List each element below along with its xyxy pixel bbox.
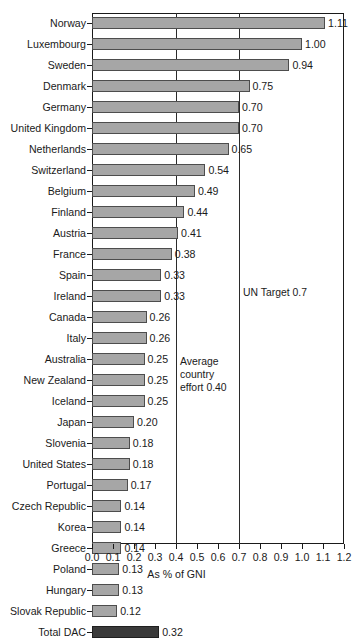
bar — [92, 227, 178, 239]
bar — [92, 248, 172, 260]
category-label: Australia — [0, 349, 86, 370]
bar — [92, 458, 130, 470]
x-axis-tick — [281, 544, 282, 549]
bar-row: Iceland0.25 — [0, 391, 353, 412]
bar-value-label: 0.18 — [133, 433, 154, 454]
category-label: United States — [0, 454, 86, 475]
x-axis-tick — [239, 544, 240, 549]
bar — [92, 332, 147, 344]
category-label: Sweden — [0, 55, 86, 76]
bar-row: Slovak Republic0.12 — [0, 601, 353, 622]
caption-cropped — [0, 589, 353, 593]
bar-value-label: 0.70 — [242, 97, 263, 118]
bar-row: Austria0.41 — [0, 223, 353, 244]
bar-value-label: 0.20 — [137, 412, 158, 433]
annotation-average-country-effort: Average country effort 0.40 — [180, 355, 238, 395]
category-label: Austria — [0, 223, 86, 244]
category-label: Norway — [0, 13, 86, 34]
bar-row: Belgium0.49 — [0, 181, 353, 202]
bar-row: Portugal0.17 — [0, 475, 353, 496]
bar-value-label: 0.26 — [150, 328, 171, 349]
bar — [92, 38, 302, 50]
category-label: Luxembourg — [0, 34, 86, 55]
category-label: Czech Republic — [0, 496, 86, 517]
bar-value-label: 0.33 — [164, 286, 185, 307]
category-label: Italy — [0, 328, 86, 349]
category-label: New Zealand — [0, 370, 86, 391]
bar-row: Japan0.20 — [0, 412, 353, 433]
bar-value-label: 1.00 — [305, 34, 326, 55]
bar — [92, 500, 121, 512]
category-label: France — [0, 244, 86, 265]
category-label: Korea — [0, 517, 86, 538]
x-axis-tick — [302, 544, 303, 549]
bar-row: Switzerland0.54 — [0, 160, 353, 181]
bar-value-label: 0.25 — [148, 370, 169, 391]
bar-value-label: 0.14 — [124, 496, 145, 517]
bar-value-label: 0.25 — [148, 391, 169, 412]
bar-value-label: 0.70 — [242, 118, 263, 139]
x-axis-title: As % of GNI — [0, 568, 353, 580]
x-axis-tick — [197, 544, 198, 549]
bar — [92, 17, 325, 29]
x-axis-tick — [218, 544, 219, 549]
bar-row: Sweden0.94 — [0, 55, 353, 76]
bar-value-label: 0.17 — [131, 475, 152, 496]
bar — [92, 605, 117, 617]
x-axis-tick — [155, 544, 156, 549]
bar — [92, 311, 147, 323]
bar-value-label: 0.12 — [120, 601, 141, 622]
bar-row: Norway1.11 — [0, 13, 353, 34]
bar-row: Canada0.26 — [0, 307, 353, 328]
category-label: Japan — [0, 412, 86, 433]
category-label: Iceland — [0, 391, 86, 412]
bar-row: Spain0.33 — [0, 265, 353, 286]
bar — [92, 80, 250, 92]
bar-value-label: 0.32 — [162, 622, 183, 642]
bar-value-label: 0.18 — [133, 454, 154, 475]
bar-value-label: 0.54 — [208, 160, 229, 181]
bar — [92, 269, 161, 281]
bar — [92, 395, 145, 407]
category-label: Finland — [0, 202, 86, 223]
bar-value-label: 0.49 — [198, 181, 219, 202]
annotation-un-target: UN Target 0.7 — [243, 286, 333, 299]
bar-value-label: 0.14 — [124, 517, 145, 538]
bar-value-label: 1.11 — [328, 13, 348, 34]
category-label: United Kingdom — [0, 118, 86, 139]
category-label: Netherlands — [0, 139, 86, 160]
bar — [92, 101, 239, 113]
bar-value-label: 0.38 — [175, 244, 196, 265]
category-label: Slovak Republic — [0, 601, 86, 622]
bar — [92, 206, 184, 218]
bar-row: Italy0.26 — [0, 328, 353, 349]
x-axis-tick — [113, 544, 114, 549]
bar-value-label: 0.75 — [253, 76, 274, 97]
x-axis-tick — [134, 544, 135, 549]
bar — [92, 374, 145, 386]
bar-row: Finland0.44 — [0, 202, 353, 223]
bar-value-label: 0.94 — [292, 55, 313, 76]
category-label: Canada — [0, 307, 86, 328]
category-label: Ireland — [0, 286, 86, 307]
category-label: Belgium — [0, 181, 86, 202]
x-axis-tick — [176, 544, 177, 549]
bar-value-label: 0.44 — [187, 202, 208, 223]
bar-row: United States0.18 — [0, 454, 353, 475]
bar-value-label: 0.33 — [164, 265, 185, 286]
bar-row: Luxembourg1.00 — [0, 34, 353, 55]
category-label: Total DAC — [0, 622, 86, 642]
bar — [92, 143, 229, 155]
bar-row: France0.38 — [0, 244, 353, 265]
bar — [92, 290, 161, 302]
bar — [92, 479, 128, 491]
bar-row: New Zealand0.25 — [0, 370, 353, 391]
x-axis-tick — [323, 544, 324, 549]
bar — [92, 59, 289, 71]
bar-row: Slovenia0.18 — [0, 433, 353, 454]
x-axis-tick — [92, 544, 93, 549]
category-label: Spain — [0, 265, 86, 286]
bar-row: Total DAC0.32 — [0, 622, 353, 642]
bar-row: Korea0.14 — [0, 517, 353, 538]
